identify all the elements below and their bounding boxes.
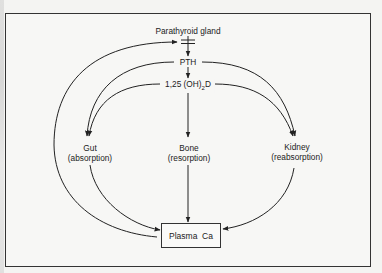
bone-sublabel: (resorption) — [168, 153, 210, 163]
node-gut: Gut (absorption) — [68, 143, 112, 163]
arrow-plasma-feedback-to-parathyroid — [54, 42, 177, 237]
plasma-ca-label: Plasma Ca — [169, 231, 213, 241]
node-parathyroid-gland: Parathyroid gland — [155, 26, 220, 36]
arrow-pth-to-gut — [87, 62, 174, 136]
arrow-pth-to-kidney — [202, 62, 295, 136]
kidney-sublabel: (reabsorption) — [271, 152, 323, 162]
vitd-suffix: D — [205, 79, 211, 89]
bone-label: Bone — [168, 143, 210, 153]
arrow-kidney-to-plasma — [223, 168, 294, 229]
node-vitamin-d: 1,25 (OH)2D — [162, 79, 214, 93]
gut-sublabel: (absorption) — [68, 153, 112, 163]
node-bone: Bone (resorption) — [168, 143, 210, 163]
node-pth: PTH — [177, 57, 200, 67]
node-kidney: Kidney (reabsorption) — [271, 142, 323, 162]
node-plasma-ca: Plasma Ca — [161, 223, 221, 248]
arrow-vitd-to-gut — [89, 84, 160, 136]
gut-label: Gut — [68, 143, 112, 153]
arrow-vitd-to-kidney — [215, 84, 293, 136]
vitd-prefix: 1,25 (OH) — [165, 79, 201, 89]
diagram-canvas: Parathyroid gland PTH 1,25 (OH)2D Gut (a… — [0, 0, 382, 273]
kidney-label: Kidney — [271, 142, 323, 152]
